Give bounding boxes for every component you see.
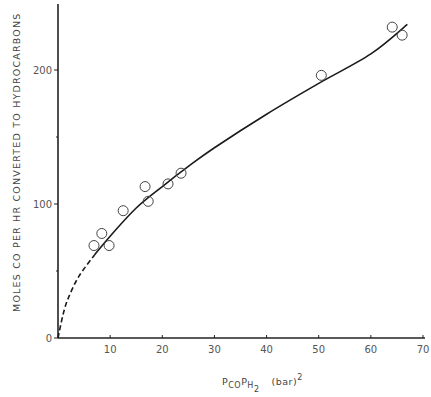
data-point-marker	[118, 206, 128, 216]
data-point-marker	[140, 182, 150, 192]
x-tick-label: 50	[312, 344, 325, 355]
data-point-marker	[387, 22, 397, 32]
data-points	[89, 22, 407, 250]
x-tick-label: 20	[156, 344, 169, 355]
x-tick-label: 40	[260, 344, 273, 355]
x-tick-label: 70	[417, 344, 430, 355]
y-axis-title: MOLES CO PER HR CONVERTED TO HYDROCARBON…	[11, 12, 22, 312]
x-tick-label: 10	[104, 344, 117, 355]
y-tick-label: 200	[33, 65, 52, 76]
data-point-marker	[176, 168, 186, 178]
data-point-marker	[104, 241, 114, 251]
y-tick-label: 100	[33, 199, 52, 210]
curves	[58, 24, 407, 338]
y-tick-label: 0	[46, 333, 52, 344]
extrapolation-curve	[58, 255, 95, 338]
data-point-marker	[97, 228, 107, 238]
chart: 102030405060700100200 MOLES CO PER HR CO…	[0, 0, 431, 397]
fit-curve	[95, 24, 408, 254]
data-point-marker	[89, 241, 99, 251]
data-point-marker	[316, 70, 326, 80]
x-axis-title: PCOPH2(bar)2	[222, 373, 303, 394]
data-point-marker	[397, 30, 407, 40]
axes: 102030405060700100200	[33, 4, 429, 355]
x-tick-label: 60	[364, 344, 377, 355]
x-tick-label: 30	[208, 344, 221, 355]
